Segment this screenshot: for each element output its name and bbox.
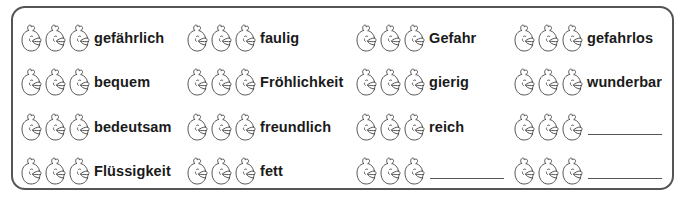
chick-head-icon[interactable]	[513, 67, 535, 97]
word-item: reich	[355, 110, 464, 144]
chick-head-icon[interactable]	[355, 67, 377, 97]
word-label: bedeutsam	[94, 119, 171, 135]
chick-group	[513, 67, 585, 97]
chick-group	[355, 23, 427, 53]
word-item: Fröhlichkeit	[186, 65, 343, 99]
chick-head-icon[interactable]	[20, 156, 42, 186]
chick-head-icon[interactable]	[44, 23, 66, 53]
chick-head-icon[interactable]	[403, 67, 425, 97]
chick-head-icon[interactable]	[379, 112, 401, 142]
word-label: gefahrlos	[587, 30, 653, 46]
chick-head-icon[interactable]	[186, 156, 208, 186]
word-item: bedeutsam	[20, 110, 171, 144]
chick-head-icon[interactable]	[210, 67, 232, 97]
chick-head-icon[interactable]	[561, 67, 583, 97]
chick-head-icon[interactable]	[537, 23, 559, 53]
chick-head-icon[interactable]	[513, 112, 535, 142]
chick-head-icon[interactable]	[20, 67, 42, 97]
chick-head-icon[interactable]	[44, 112, 66, 142]
word-label: Gefahr	[429, 30, 476, 46]
chick-head-icon[interactable]	[186, 67, 208, 97]
chick-group	[513, 112, 585, 142]
word-label: gefährlich	[94, 30, 164, 46]
chick-head-icon[interactable]	[513, 23, 535, 53]
word-item: bequem	[20, 65, 150, 99]
word-label: Flüssigkeit	[94, 163, 171, 179]
word-item: faulig	[186, 21, 299, 55]
word-item: gefahrlos	[513, 21, 653, 55]
word-item: fett	[186, 154, 283, 188]
word-item: freundlich	[186, 110, 331, 144]
chick-head-icon[interactable]	[355, 156, 377, 186]
chick-head-icon[interactable]	[561, 112, 583, 142]
chick-head-icon[interactable]	[355, 112, 377, 142]
chick-head-icon[interactable]	[68, 67, 90, 97]
word-label: bequem	[94, 74, 150, 90]
chick-head-icon[interactable]	[234, 156, 256, 186]
answer-blank-line[interactable]	[588, 134, 662, 135]
chick-head-icon[interactable]	[234, 112, 256, 142]
word-label: reich	[429, 119, 464, 135]
chick-group	[355, 112, 427, 142]
chick-head-icon[interactable]	[68, 112, 90, 142]
chick-head-icon[interactable]	[403, 112, 425, 142]
word-label: gierig	[429, 74, 469, 90]
chick-head-icon[interactable]	[403, 23, 425, 53]
chick-group	[186, 67, 258, 97]
word-item-blank	[513, 154, 662, 188]
word-item-blank	[513, 110, 662, 144]
chick-head-icon[interactable]	[379, 23, 401, 53]
word-item: gefährlich	[20, 21, 164, 55]
word-label: wunderbar	[587, 74, 662, 90]
chick-group	[186, 112, 258, 142]
chick-head-icon[interactable]	[20, 23, 42, 53]
word-label: fett	[260, 163, 283, 179]
chick-group	[20, 67, 92, 97]
chick-head-icon[interactable]	[537, 156, 559, 186]
chick-head-icon[interactable]	[379, 156, 401, 186]
chick-head-icon[interactable]	[403, 156, 425, 186]
chick-head-icon[interactable]	[210, 112, 232, 142]
chick-head-icon[interactable]	[68, 23, 90, 53]
chick-group	[20, 156, 92, 186]
word-item: Flüssigkeit	[20, 154, 171, 188]
chick-group	[20, 112, 92, 142]
chick-head-icon[interactable]	[234, 67, 256, 97]
word-item: Gefahr	[355, 21, 476, 55]
chick-head-icon[interactable]	[513, 156, 535, 186]
chick-head-icon[interactable]	[68, 156, 90, 186]
word-item-blank	[355, 154, 504, 188]
chick-head-icon[interactable]	[210, 156, 232, 186]
chick-head-icon[interactable]	[186, 23, 208, 53]
answer-blank-line[interactable]	[588, 178, 662, 179]
chick-head-icon[interactable]	[44, 156, 66, 186]
chick-head-icon[interactable]	[44, 67, 66, 97]
chick-group	[355, 156, 427, 186]
answer-blank-line[interactable]	[430, 178, 504, 179]
chick-head-icon[interactable]	[186, 112, 208, 142]
word-grid: gefährlich faulig	[0, 0, 682, 199]
word-item: gierig	[355, 65, 469, 99]
chick-head-icon[interactable]	[561, 23, 583, 53]
chick-head-icon[interactable]	[210, 23, 232, 53]
chick-group	[186, 23, 258, 53]
chick-head-icon[interactable]	[234, 23, 256, 53]
word-item: wunderbar	[513, 65, 662, 99]
chick-head-icon[interactable]	[20, 112, 42, 142]
chick-group	[355, 67, 427, 97]
chick-head-icon[interactable]	[561, 156, 583, 186]
chick-group	[20, 23, 92, 53]
chick-head-icon[interactable]	[355, 23, 377, 53]
word-label: Fröhlichkeit	[260, 74, 343, 90]
chick-group	[513, 23, 585, 53]
word-label: faulig	[260, 30, 299, 46]
chick-head-icon[interactable]	[379, 67, 401, 97]
chick-head-icon[interactable]	[537, 67, 559, 97]
chick-head-icon[interactable]	[537, 112, 559, 142]
chick-group	[186, 156, 258, 186]
word-label: freundlich	[260, 119, 331, 135]
chick-group	[513, 156, 585, 186]
